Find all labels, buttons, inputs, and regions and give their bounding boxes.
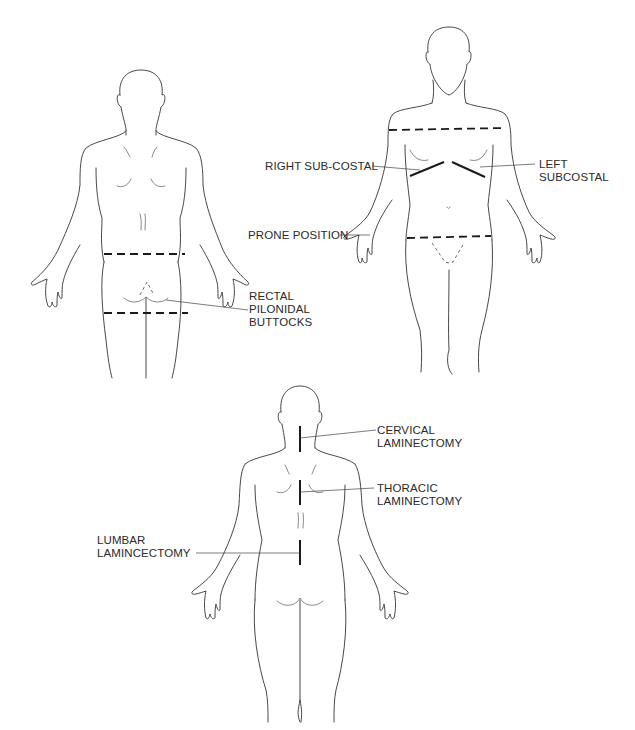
torso-outline <box>31 131 248 378</box>
label-lumbar-line2: LAMINCECTOMY <box>97 547 191 560</box>
torso-outline <box>344 103 555 374</box>
lower-abdominal-incision <box>407 236 491 238</box>
label-right-subcostal: RIGHT SUB-COSTAL <box>265 160 378 173</box>
left-subcostal-incision <box>452 162 485 177</box>
head-outline <box>426 27 471 103</box>
figure-anterior <box>340 27 555 374</box>
label-cervical-line1: CERVICAL <box>377 424 435 437</box>
figure-posterior-buttocks <box>31 70 248 378</box>
label-thoracic-line2: LAMINECTOMY <box>377 495 462 508</box>
label-cervical-line2: LAMINECTOMY <box>377 437 462 450</box>
label-left-subcostal-line1: LEFT <box>539 158 568 171</box>
surgical-incision-diagram: RECTAL PILONIDAL BUTTOCKS RIGHT SUB-COST… <box>0 0 635 730</box>
right-subcostal-incision <box>410 162 444 176</box>
label-rectal: RECTAL <box>249 290 294 303</box>
label-lumbar-line1: LUMBAR <box>97 534 146 547</box>
label-thoracic-line1: THORACIC <box>377 482 438 495</box>
chest-transverse-incision <box>389 128 506 130</box>
label-left-subcostal-line2: SUBCOSTAL <box>539 171 609 184</box>
figure-posterior-spine <box>192 386 408 722</box>
head-outline <box>117 70 165 135</box>
label-prone-position: PRONE POSITION <box>248 229 348 242</box>
label-buttocks: BUTTOCKS <box>249 316 312 329</box>
label-pilonidal: PILONIDAL <box>249 303 310 316</box>
